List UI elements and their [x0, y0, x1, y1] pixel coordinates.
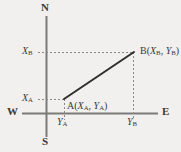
x-axis-tick-yb: YB	[127, 117, 137, 127]
coordinate-diagram: N S W E XB XA YA YB A(XA, YA) B(XB, YB)	[0, 0, 181, 152]
x-axis-tick-ya-sub: A	[63, 120, 68, 127]
point-label-b-close: )	[176, 45, 179, 56]
x-axis-tick-ya: YA	[57, 117, 67, 127]
x-axis-tick-yb-sub: B	[133, 120, 138, 127]
y-axis-tick-xb-sub: B	[28, 49, 33, 56]
y-axis-tick-xa-sub: A	[28, 96, 33, 103]
point-label-a-close: )	[104, 100, 107, 111]
point-label-a-open: A(	[67, 100, 78, 111]
point-label-b: B(XB, YB)	[140, 46, 179, 56]
compass-label-west: W	[7, 106, 18, 117]
compass-label-north: N	[41, 2, 49, 13]
diagram-canvas	[0, 0, 181, 152]
y-axis-tick-xb: XB	[22, 46, 33, 56]
point-label-b-open: B(	[140, 45, 150, 56]
segment-a-to-b	[64, 52, 134, 99]
compass-label-east: E	[162, 106, 169, 117]
y-axis-tick-xa: XA	[22, 93, 33, 103]
compass-label-south: S	[42, 136, 48, 147]
point-label-a: A(XA, YA)	[67, 101, 107, 111]
